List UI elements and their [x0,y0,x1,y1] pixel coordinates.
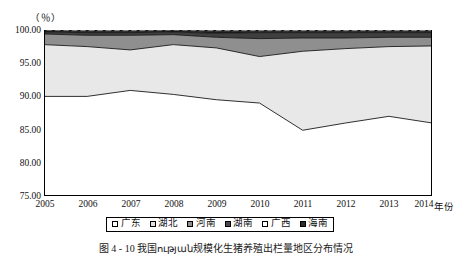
legend-label: 广西 [271,219,291,229]
x-tick-label: 2013 [380,199,399,209]
chart-legend: 广东 湖北 河南 湖南 广西 海南 [106,217,334,232]
legend-label: 湖北 [158,219,178,229]
legend-item-henan[interactable]: 河南 [187,219,216,229]
x-tick-label: 2011 [294,199,313,209]
x-tick-label: 2006 [79,199,98,209]
legend-item-guangdong[interactable]: 广东 [112,219,141,229]
plot-area [44,30,432,196]
legend-swatch-icon [262,221,268,227]
x-tick-label: 2005 [36,199,55,209]
y-tick-label: 100.00 [15,25,41,35]
legend-item-hainan[interactable]: 海南 [300,219,329,229]
x-tick-label: 2009 [208,199,227,209]
legend-swatch-icon [112,221,118,227]
legend-swatch-icon [300,221,306,227]
legend-label: 海南 [308,219,328,229]
x-axis-tick-row: 2005 2006 2007 2008 2009 2010 2011 2012 … [0,199,452,213]
x-tick-label: 2010 [251,199,270,209]
legend-swatch-icon [187,221,193,227]
plot-frame [44,30,432,196]
x-tick-label: 2007 [122,199,141,209]
y-tick-label: 90.00 [20,91,41,101]
legend-label: 湖南 [233,219,253,229]
legend-label: 广东 [121,219,141,229]
legend-item-hunan[interactable]: 湖南 [225,219,254,229]
y-tick-label: 85.00 [20,125,41,135]
x-axis-title: 年份 [434,199,454,213]
figure-caption: 图 4 - 10 我国ության规模化生猪养殖出栏量地区分布情况 [0,240,452,255]
x-tick-label: 2014 [415,199,434,209]
x-tick-label: 2012 [337,199,356,209]
y-tick-label: 95.00 [20,58,41,68]
legend-item-guangxi[interactable]: 广西 [262,219,291,229]
y-axis-tick-column: 100.00 95.00 90.00 85.00 80.00 75.00 [0,0,41,253]
legend-swatch-icon [150,221,156,227]
legend-label: 河南 [196,219,216,229]
legend-item-hubei[interactable]: 湖北 [150,219,179,229]
y-tick-label: 80.00 [20,158,41,168]
plot-right-edge [431,30,432,195]
x-tick-label: 2008 [165,199,184,209]
legend-swatch-icon [225,221,231,227]
